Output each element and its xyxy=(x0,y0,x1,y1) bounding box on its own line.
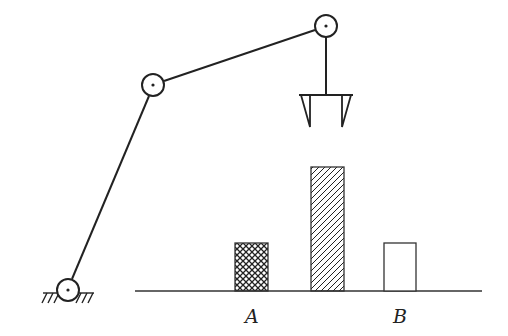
block-a xyxy=(235,243,268,291)
robot-arm-diagram: A B xyxy=(0,0,508,336)
elbow-joint-icon xyxy=(142,74,164,96)
block-middle xyxy=(311,167,344,291)
wrist-joint-icon xyxy=(315,15,337,37)
lower-arm-link xyxy=(72,96,149,279)
upper-arm-link xyxy=(164,30,315,81)
block-b xyxy=(384,243,416,291)
gripper-icon xyxy=(299,95,353,127)
label-a: A xyxy=(243,305,259,327)
label-b: B xyxy=(392,305,407,327)
arm-links xyxy=(72,30,326,279)
base-joint-icon xyxy=(57,279,79,301)
